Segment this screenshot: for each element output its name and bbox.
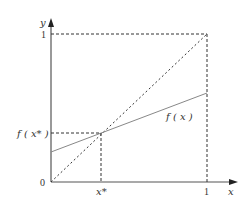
x-axis-arrow-icon	[229, 179, 238, 185]
y-tick-label: 1	[41, 29, 46, 40]
x-axis-label: x	[228, 186, 234, 197]
diagonal-y-equals-x	[51, 34, 207, 182]
origin-label: 0	[40, 177, 45, 188]
fixed-point-diagram: y 1 0 1 x x* f ( x* ) f ( x )	[0, 0, 250, 207]
y-axis-arrow-icon	[48, 18, 54, 27]
curve-f-x	[51, 93, 207, 152]
fixed-point-x-label: x*	[96, 186, 107, 197]
fixed-point-y-label: f ( x* )	[16, 128, 49, 139]
y-axis-label: y	[39, 17, 46, 28]
x-tick-label: 1	[204, 186, 209, 197]
curve-label: f ( x )	[165, 111, 193, 122]
